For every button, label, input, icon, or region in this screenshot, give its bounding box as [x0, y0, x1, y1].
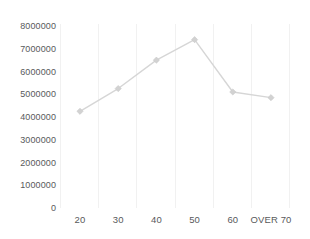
- x-axis: 2030405060OVER 70: [0, 0, 310, 239]
- x-axis-tick-label: 30: [113, 214, 124, 225]
- x-axis-tick-label: 40: [151, 214, 162, 225]
- x-axis-tick-label: OVER 70: [251, 214, 292, 225]
- x-axis-tick-label: 60: [227, 214, 238, 225]
- x-axis-tick-label: 50: [189, 214, 200, 225]
- line-chart: 8000000700000060000005000000400000030000…: [0, 0, 310, 239]
- x-axis-tick-label: 20: [75, 214, 86, 225]
